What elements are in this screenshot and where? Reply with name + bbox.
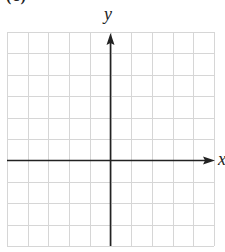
coordinate-plane xyxy=(0,0,225,252)
x-axis-label: x xyxy=(218,150,225,168)
y-axis-label: y xyxy=(104,5,112,23)
